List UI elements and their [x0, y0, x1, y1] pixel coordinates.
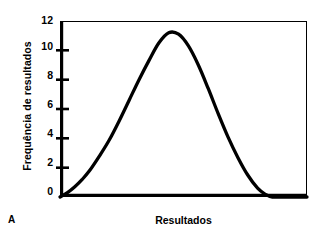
- plot-area: [60, 21, 307, 197]
- panel-letter-label: A: [8, 214, 15, 225]
- x-axis-title: Resultados: [60, 214, 307, 226]
- chart-svg: [60, 21, 307, 197]
- y-axis-tick-labels: 12 10 8 6 4 2 0: [26, 14, 53, 204]
- y-tick-label: 2: [26, 156, 53, 168]
- y-tick-label: 0: [26, 185, 53, 197]
- y-tick-label: 4: [26, 127, 53, 139]
- frequency-distribution-curve: [60, 32, 307, 197]
- figure-panel-a: Frequência de resultados 12 10 8 6 4 2 0: [0, 0, 321, 233]
- y-tick-label: 6: [26, 98, 53, 110]
- y-tick-label: 10: [26, 40, 53, 52]
- y-tick-label: 8: [26, 69, 53, 81]
- y-tick-label: 12: [26, 14, 53, 26]
